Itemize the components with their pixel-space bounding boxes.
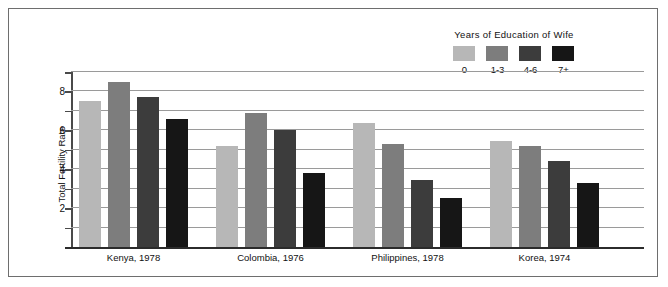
plot-area bbox=[71, 72, 644, 247]
y-axis-tick-label: 2 bbox=[59, 203, 65, 214]
bar bbox=[79, 101, 101, 247]
bar bbox=[274, 130, 296, 247]
bar bbox=[411, 180, 433, 247]
x-axis-group-label: Kenya, 1978 bbox=[107, 252, 160, 263]
legend-swatch bbox=[552, 46, 574, 61]
bar bbox=[440, 198, 462, 247]
y-axis-labels: 2468 bbox=[45, 72, 65, 248]
legend: Years of Education of Wife 01-34-67+ bbox=[439, 29, 589, 75]
bar bbox=[216, 146, 238, 247]
legend-title: Years of Education of Wife bbox=[439, 29, 589, 40]
bar bbox=[519, 146, 541, 247]
x-axis-group-label: Philippines, 1978 bbox=[371, 252, 443, 263]
bar bbox=[166, 119, 188, 247]
x-axis-group-label: Korea, 1974 bbox=[519, 252, 571, 263]
y-axis-tick-label: 6 bbox=[59, 125, 65, 136]
bar bbox=[577, 183, 599, 247]
bar bbox=[108, 82, 130, 247]
x-axis-baseline bbox=[65, 247, 644, 249]
legend-swatch bbox=[519, 46, 541, 61]
bar bbox=[353, 123, 375, 247]
bar-group bbox=[216, 72, 325, 247]
legend-swatch bbox=[486, 46, 508, 61]
bar bbox=[245, 113, 267, 247]
bar bbox=[548, 161, 570, 247]
bar bbox=[490, 141, 512, 247]
x-axis-group-label: Colombia, 1976 bbox=[237, 252, 304, 263]
bar bbox=[137, 97, 159, 247]
bar bbox=[382, 144, 404, 247]
y-axis-tick-label: 4 bbox=[59, 164, 65, 175]
bar-group bbox=[353, 72, 462, 247]
bar-group bbox=[490, 72, 599, 247]
chart-frame: Years of Education of Wife 01-34-67+ Tot… bbox=[8, 8, 658, 277]
legend-swatch bbox=[453, 46, 475, 61]
bar-series-container bbox=[71, 72, 644, 247]
bar bbox=[303, 173, 325, 247]
y-axis-tick-label: 8 bbox=[59, 86, 65, 97]
bar-group bbox=[79, 72, 188, 247]
